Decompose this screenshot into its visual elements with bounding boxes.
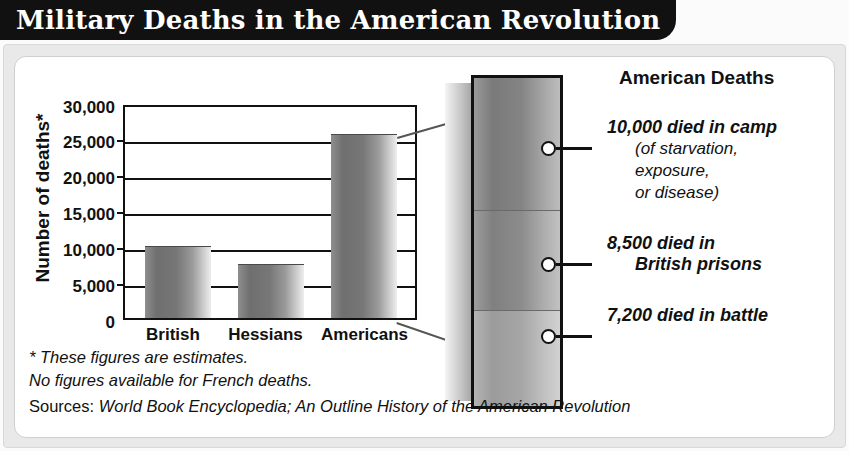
callout-prisons-value: 8,500 died in [607,233,762,254]
callout-died-in-camp: 10,000 died in camp (of starvation, expo… [607,117,777,203]
marker-died-in-battle [541,329,556,344]
footnote-french: No figures available for French deaths. [29,371,312,390]
breakout-heading: American Deaths [619,67,774,89]
leader-line-prisons [556,263,592,266]
y-tick-0: 0 [25,314,115,331]
x-label-hessians: Hessians [213,325,318,345]
bar-chart: Number of deaths* 30,000 25,000 20,000 1… [15,57,485,439]
callout-camp-detail-2: exposure, [607,160,777,182]
sources-line: Sources: World Book Encyclopedia; An Out… [29,397,630,416]
infographic-root: Military Deaths in the American Revoluti… [0,0,849,451]
y-tick-20000: 20,000 [25,170,115,187]
callout-died-in-battle: 7,200 died in battle [607,305,768,326]
marker-british-prisons [541,257,556,272]
segment-divider-lower [474,310,560,311]
y-tick-10000: 10,000 [25,242,115,259]
segment-divider-upper [474,210,560,211]
magnified-bar [445,75,585,415]
leader-line-camp [556,147,592,150]
breakout-callouts: American Deaths 10,000 died in camp (of … [593,57,836,439]
leader-line-battle [556,335,592,338]
callout-british-prisons: 8,500 died in British prisons [607,233,762,275]
callout-camp-detail-3: or disease) [607,182,777,204]
marker-died-in-camp [541,141,556,156]
magnified-bar-body [471,75,563,409]
callout-camp-value: 10,000 died in camp [607,117,777,138]
x-label-americans: Americans [307,325,422,345]
y-tick-5000: 5,000 [25,278,115,295]
page-title: Military Deaths in the American Revoluti… [0,5,660,35]
footnote-estimates: * These figures are estimates. [29,348,248,367]
bar-americans [331,134,397,318]
title-banner: Military Deaths in the American Revoluti… [0,0,676,40]
y-tick-25000: 25,000 [25,134,115,151]
sources-value: World Book Encyclopedia; An Outline Hist… [99,397,631,415]
y-tick-30000: 30,000 [25,99,115,116]
segment-died-in-battle [474,310,560,406]
y-tick-15000: 15,000 [25,206,115,223]
callout-prisons-cont: British prisons [607,254,762,275]
callout-battle-value: 7,200 died in battle [607,305,768,326]
x-label-british: British [123,325,223,345]
content-panel: Number of deaths* 30,000 25,000 20,000 1… [14,56,835,438]
bar-hessians [238,264,304,318]
plot-area [123,105,417,320]
bar-british [145,246,211,318]
sources-label: Sources: [29,397,94,415]
callout-camp-detail-1: (of starvation, [607,138,777,160]
magnified-bar-side [445,83,471,401]
